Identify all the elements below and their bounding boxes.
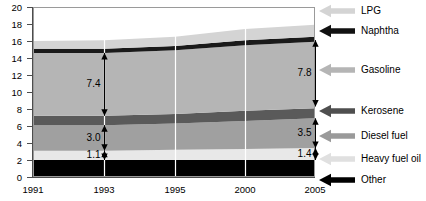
y-tick-mark-2 — [27, 160, 32, 161]
legend-label: Kerosene — [361, 106, 404, 116]
legend-arrow-shape — [319, 25, 355, 37]
x-tick-label-1995: 1995 — [155, 185, 195, 195]
y-tick-label-0: 0 — [0, 173, 22, 183]
y-tick-label-2: 2 — [0, 156, 22, 166]
legend-arrow-icon — [318, 4, 356, 18]
legend-arrow-icon — [318, 104, 356, 118]
y-tick-label-16: 16 — [0, 37, 22, 47]
stacked-area-chart: 20181614121086420 19911993199520002005 7… — [0, 0, 426, 201]
legend-arrow-icon — [318, 24, 356, 38]
y-tick-mark-0 — [27, 177, 32, 178]
y-tick-label-10: 10 — [0, 88, 22, 98]
x-tick-label-1991: 1991 — [13, 185, 53, 195]
annotation-value-gasoline-2005: 7.8 — [286, 68, 312, 78]
legend-label: Diesel fuel — [361, 131, 408, 141]
legend-arrow-shape — [319, 64, 355, 76]
y-tick-label-12: 12 — [0, 71, 22, 81]
legend-arrow-icon — [318, 63, 356, 77]
x-tick-label-1993: 1993 — [84, 185, 124, 195]
y-tick-mark-6 — [27, 126, 32, 127]
y-tick-mark-14 — [27, 58, 32, 59]
y-tick-label-6: 6 — [0, 122, 22, 132]
y-tick-label-14: 14 — [0, 54, 22, 64]
y-tick-label-20: 20 — [0, 3, 22, 13]
annotation-value-heavy-2005: 1.4 — [286, 149, 312, 159]
y-tick-mark-20 — [27, 7, 32, 8]
legend-item-lpg[interactable]: LPG — [318, 4, 381, 18]
legend-arrow-icon — [318, 152, 356, 166]
legend-label: Gasoline — [361, 65, 400, 75]
x-tick-label-2000: 2000 — [225, 185, 265, 195]
y-tick-mark-4 — [27, 143, 32, 144]
annotation-value-heavy-1993: 1.1 — [75, 150, 101, 160]
y-tick-mark-16 — [27, 41, 32, 42]
legend-arrow-shape — [319, 153, 355, 165]
legend-item-other[interactable]: Other — [318, 173, 386, 187]
legend-label: Other — [361, 175, 386, 185]
legend-item-kerosene[interactable]: Kerosene — [318, 104, 404, 118]
legend-arrow-shape — [319, 105, 355, 117]
x-axis-line — [32, 177, 315, 178]
annotation-value-gasoline-1993: 7.4 — [75, 79, 101, 89]
legend-label: Heavy fuel oil — [361, 154, 421, 164]
y-tick-mark-10 — [27, 92, 32, 93]
legend-arrow-shape — [319, 174, 355, 186]
y-tick-mark-18 — [27, 24, 32, 25]
legend-item-diesel-fuel[interactable]: Diesel fuel — [318, 129, 408, 143]
chart-legend: LPGNaphthaGasolineKeroseneDiesel fuelHea… — [318, 0, 426, 201]
legend-label: Naphtha — [361, 26, 399, 36]
legend-arrow-shape — [319, 5, 355, 17]
legend-label: LPG — [361, 6, 381, 16]
y-tick-mark-8 — [27, 109, 32, 110]
area-series-other — [33, 160, 315, 177]
annotation-value-diesel-1993: 3.0 — [75, 133, 101, 143]
y-axis-line — [32, 7, 33, 178]
legend-arrow-shape — [319, 130, 355, 142]
y-tick-label-4: 4 — [0, 139, 22, 149]
legend-arrow-icon — [318, 129, 356, 143]
legend-arrow-icon — [318, 173, 356, 187]
legend-item-naphtha[interactable]: Naphtha — [318, 24, 399, 38]
legend-item-gasoline[interactable]: Gasoline — [318, 63, 400, 77]
y-tick-label-8: 8 — [0, 105, 22, 115]
y-tick-mark-12 — [27, 75, 32, 76]
legend-item-heavy-fuel-oil[interactable]: Heavy fuel oil — [318, 152, 421, 166]
annotation-value-diesel-2005: 3.5 — [286, 128, 312, 138]
y-tick-label-18: 18 — [0, 20, 22, 30]
